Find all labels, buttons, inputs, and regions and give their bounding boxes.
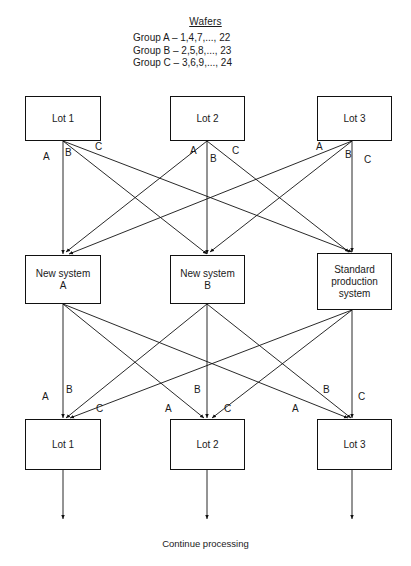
edge-label-bottom-8: B [323, 385, 330, 395]
node-bottom-lot-3[interactable]: Lot 3 [317, 419, 392, 470]
edge-label-bottom-7: A [292, 404, 299, 414]
node-top-lot-1-label: Lot 1 [52, 113, 74, 125]
edge-sysB-to-bot3 [207, 304, 351, 418]
edge-label-bottom-2: B [66, 385, 73, 395]
edge-label-top-9: C [364, 155, 371, 165]
edge-label-top-2: B [65, 148, 72, 158]
node-system-standard-label: Standard production system [331, 264, 378, 300]
edge-top2-to-sysA [66, 141, 207, 252]
edge-sysA-to-bot3 [63, 304, 348, 418]
node-system-new-a-label: New system A [36, 268, 90, 292]
edge-label-top-4: A [190, 146, 197, 156]
edge-sysA-to-bot2 [63, 304, 204, 418]
edge-label-bottom-4: A [165, 404, 172, 414]
edge-label-bottom-5: B [194, 385, 201, 395]
edge-label-bottom-6: C [224, 404, 231, 414]
node-bottom-lot-1[interactable]: Lot 1 [25, 419, 101, 470]
node-bottom-lot-2-label: Lot 2 [196, 439, 218, 451]
edge-sysStd-to-bot1 [70, 310, 352, 418]
node-top-lot-2[interactable]: Lot 2 [170, 96, 245, 141]
edge-label-top-6: C [232, 146, 239, 156]
edge-label-top-7: A [316, 142, 323, 152]
edge-label-top-1: A [43, 152, 50, 162]
node-top-lot-1[interactable]: Lot 1 [25, 96, 101, 141]
edge-label-top-8: B [345, 150, 352, 160]
edge-top1-to-sysStd [63, 141, 352, 252]
edge-top3-to-sysB [210, 141, 352, 252]
diagram-canvas: Wafers Group A – 1,4,7,..., 22 Group B –… [0, 0, 411, 566]
node-bottom-lot-1-label: Lot 1 [52, 439, 74, 451]
node-bottom-lot-2[interactable]: Lot 2 [170, 419, 245, 470]
node-system-standard[interactable]: Standard production system [317, 253, 392, 310]
node-top-lot-2-label: Lot 2 [196, 113, 218, 125]
edge-label-top-3: C [95, 142, 102, 152]
edge-label-bottom-9: C [358, 392, 365, 402]
node-top-lot-3-label: Lot 3 [343, 113, 365, 125]
node-system-new-b[interactable]: New system B [170, 255, 245, 304]
edge-top2-to-sysStd [207, 141, 349, 252]
footer-caption: Continue processing [0, 538, 411, 549]
edge-label-top-5: B [210, 154, 217, 164]
node-bottom-lot-3-label: Lot 3 [343, 439, 365, 451]
node-top-lot-3[interactable]: Lot 3 [317, 96, 392, 141]
edge-sysB-to-bot1 [66, 304, 207, 418]
edge-label-bottom-3: C [96, 404, 103, 414]
node-system-new-a[interactable]: New system A [25, 255, 101, 304]
node-system-new-b-label: New system B [180, 268, 234, 292]
edge-label-bottom-1: A [42, 392, 49, 402]
